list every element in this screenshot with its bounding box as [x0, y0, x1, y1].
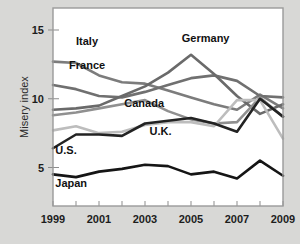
x-tick-label: 2001 — [87, 213, 111, 225]
y-axis-title: Misery index — [18, 76, 30, 138]
series-label-uk: U.K. — [150, 125, 172, 137]
series-label-germany: Germany — [182, 32, 231, 44]
x-tick-label: 2005 — [179, 213, 203, 225]
x-tick-label: 2009 — [271, 213, 295, 225]
chart-figure: 51015 199920012003200520072009 ItalyFran… — [0, 0, 300, 244]
x-tick-label: 1999 — [41, 213, 65, 225]
x-tick-label: 2003 — [133, 213, 157, 225]
y-tick-label: 15 — [32, 24, 44, 36]
series-label-france: France — [69, 59, 105, 71]
y-tick-label: 10 — [32, 93, 44, 105]
x-tick-label: 2007 — [225, 213, 249, 225]
y-tick-label: 5 — [38, 162, 44, 174]
series-label-us: U.S. — [55, 144, 76, 156]
misery-index-line-chart: 51015 199920012003200520072009 ItalyFran… — [0, 0, 300, 244]
series-label-japan: Japan — [55, 177, 87, 189]
series-label-canada: Canada — [124, 97, 165, 109]
series-label-italy: Italy — [76, 35, 99, 47]
